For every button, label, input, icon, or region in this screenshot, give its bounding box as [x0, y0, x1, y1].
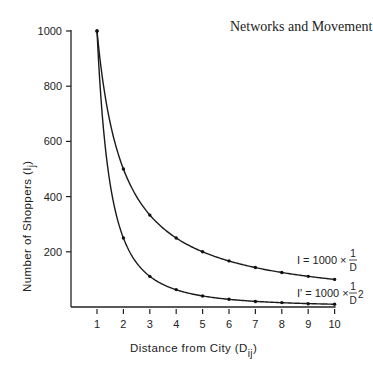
x-tick-label: 5	[200, 318, 206, 330]
formula-numerator: 1	[350, 248, 356, 259]
data-point	[307, 302, 310, 305]
data-point	[254, 300, 257, 303]
chart-labels: Distance from City (Dij)Number of Shoppe…	[21, 160, 364, 359]
y-tick-label: 200	[44, 246, 62, 258]
formula-denominator: D	[349, 295, 356, 306]
data-point	[201, 250, 204, 253]
x-tick-label: 4	[173, 318, 179, 330]
x-axis-ticks: 12345678910	[94, 309, 341, 330]
formula-exponent: 2	[358, 289, 364, 300]
data-point	[148, 275, 151, 278]
data-point	[175, 236, 178, 239]
x-tick-label: 6	[226, 318, 232, 330]
formula-lhs: I' = 1000 ×	[297, 287, 349, 299]
formula-label-1: I = 1000 ×1D	[297, 248, 357, 273]
data-point	[122, 236, 125, 239]
x-tick-label: 2	[120, 318, 126, 330]
data-point	[254, 266, 257, 269]
x-axis-label: Distance from City (Dij)	[130, 342, 257, 359]
data-point	[333, 278, 336, 281]
x-tick-label: 7	[252, 318, 258, 330]
data-point	[122, 167, 125, 170]
x-tick-label: 3	[147, 318, 153, 330]
formula-lhs: I = 1000 ×	[297, 254, 347, 266]
y-tick-label: 800	[44, 80, 62, 92]
data-point	[333, 303, 336, 306]
series-line-1	[97, 31, 335, 279]
chart-axes	[71, 30, 336, 307]
y-axis-label: Number of Shoppers (Ij)	[21, 160, 37, 292]
y-tick-label: 600	[44, 135, 62, 147]
data-point	[148, 213, 151, 216]
data-point	[307, 275, 310, 278]
x-tick-label: 10	[328, 318, 340, 330]
x-tick-label: 1	[94, 318, 100, 330]
formula-denominator: D	[349, 262, 356, 273]
data-point	[280, 301, 283, 304]
formula-label-2: I' = 1000 ×1D2	[297, 281, 364, 306]
formula-numerator: 1	[350, 281, 356, 292]
distance-decay-chart: 2004006008001000 12345678910 Distance fr…	[0, 0, 373, 369]
data-point	[95, 29, 98, 32]
y-axis-ticks: 2004006008001000	[38, 25, 71, 258]
data-point	[227, 259, 230, 262]
x-tick-label: 9	[305, 318, 311, 330]
data-point	[201, 294, 204, 297]
data-point	[280, 271, 283, 274]
x-tick-label: 8	[279, 318, 285, 330]
data-point	[175, 288, 178, 291]
y-tick-label: 400	[44, 191, 62, 203]
data-point	[227, 298, 230, 301]
y-tick-label: 1000	[38, 25, 62, 37]
